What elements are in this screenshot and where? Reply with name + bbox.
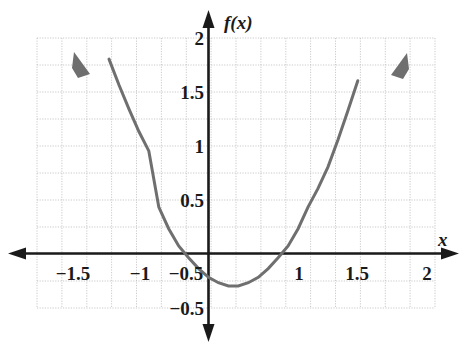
x-tick-label-neg1-5: −1.5 xyxy=(56,264,91,283)
chart-figure: −1.5 −1 −0.5 1 1.5 2 2 1.5 1 0.5 −0.5 f(… xyxy=(0,0,467,353)
x-tick-label-1-5: 1.5 xyxy=(345,264,369,283)
function-curve xyxy=(72,52,409,286)
grid-lines xyxy=(37,38,435,308)
y-axis-name-label: f(x) xyxy=(224,13,252,32)
y-tick-label-1-5: 1.5 xyxy=(180,83,204,102)
graph-canvas xyxy=(0,0,467,353)
x-axis-arrow-left-icon xyxy=(8,248,26,260)
y-axis-arrow-up-icon xyxy=(203,10,215,28)
curve-arrow-right-icon xyxy=(391,53,409,79)
x-tick-label-1: 1 xyxy=(294,264,304,283)
y-tick-label-neg0-5: −0.5 xyxy=(169,299,204,318)
y-axis-arrow-down-icon xyxy=(203,324,215,342)
y-axis xyxy=(203,10,215,342)
x-axis xyxy=(8,248,459,260)
y-tick-label-1: 1 xyxy=(195,137,205,156)
parabola-path xyxy=(109,59,358,286)
y-tick-label-2: 2 xyxy=(195,29,205,48)
x-tick-label-neg0-5: −0.5 xyxy=(169,264,204,283)
y-tick-label-0-5: 0.5 xyxy=(180,191,204,210)
x-axis-name-label: x xyxy=(438,230,448,249)
x-tick-label-2: 2 xyxy=(422,264,432,283)
x-tick-label-neg1: −1 xyxy=(130,264,150,283)
